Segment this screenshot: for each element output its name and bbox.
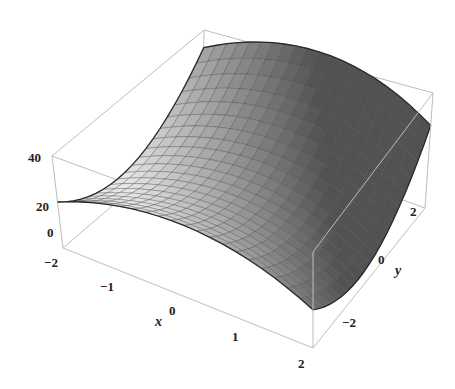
x-tick-minus1: −1 — [100, 279, 114, 294]
y-tick-2: 2 — [410, 204, 417, 219]
z-tick-40: 40 — [28, 150, 41, 165]
y-tick-0: 0 — [378, 252, 385, 267]
surface-plot-3d: 40 20 0 −2 −1 0 1 2 2 0 −2 x y — [0, 0, 455, 389]
y-axis-label: y — [393, 263, 402, 278]
x-tick-2: 2 — [298, 356, 305, 371]
saddle-surface — [58, 42, 431, 310]
x-axis-label: x — [154, 314, 162, 329]
x-tick-minus2: −2 — [44, 255, 58, 270]
x-tick-0: 0 — [169, 303, 176, 318]
z-tick-0: 0 — [47, 225, 54, 240]
x-tick-1: 1 — [232, 329, 239, 344]
box-edge — [425, 93, 433, 208]
y-tick-minus2: −2 — [342, 315, 356, 330]
z-tick-20: 20 — [36, 199, 49, 214]
